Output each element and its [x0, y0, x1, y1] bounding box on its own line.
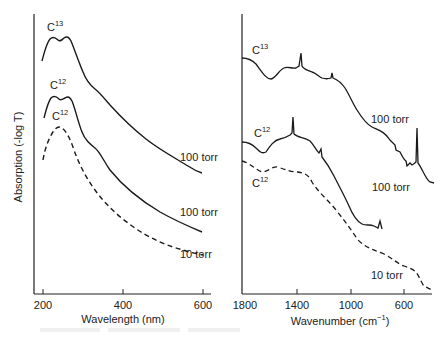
- end-label: 100 torr: [372, 181, 410, 193]
- x-tick-label: 1000: [339, 299, 363, 311]
- curve-c13-100torr: [42, 37, 202, 173]
- end-label: 10 torr: [371, 269, 403, 281]
- curve-label-c12: C12: [50, 77, 66, 91]
- end-label: 100 torr: [371, 113, 409, 125]
- curve-label-c12-dashed: C12: [52, 108, 68, 122]
- left-panel: 200 400 600 Wavelength (nm) Absorption (…: [12, 14, 218, 325]
- figure: 200 400 600 Wavelength (nm) Absorption (…: [0, 0, 448, 337]
- end-label: 100 torr: [180, 151, 218, 163]
- x-tick-label: 600: [395, 299, 413, 311]
- end-label: 10 torr: [180, 248, 212, 260]
- curve-label-c13: C13: [252, 42, 268, 56]
- x-axis-title: Wavenumber (cm−1): [291, 313, 390, 327]
- x-tick-label: 400: [114, 299, 132, 311]
- x-tick-label: 200: [34, 299, 52, 311]
- x-tick-label: 1800: [233, 299, 257, 311]
- x-axis-title: Wavelength (nm): [81, 313, 164, 325]
- y-axis-title: Absorption (-log T): [12, 112, 24, 203]
- x-tick-label: 600: [194, 299, 212, 311]
- curve-label-c12: C12: [254, 125, 270, 139]
- end-label: 100 torr: [180, 206, 218, 218]
- cropped-caption: [40, 328, 240, 332]
- right-panel: 1800 1400 1000 600 Wavenumber (cm−1) C13…: [233, 14, 434, 327]
- curve-c12-10torr: [43, 127, 203, 255]
- curve-label-c12-dashed: C12: [252, 175, 268, 189]
- x-tick-label: 1400: [285, 299, 309, 311]
- curve-label-c13: C13: [47, 19, 63, 33]
